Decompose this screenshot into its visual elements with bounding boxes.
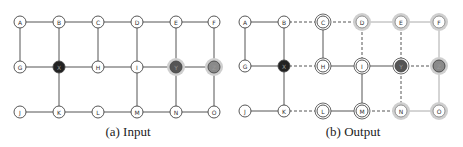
node-G: G (14, 61, 26, 73)
node-J: J (14, 106, 26, 118)
node-B: B (278, 16, 290, 28)
node-label: M (359, 108, 364, 115)
node-M: M (131, 106, 143, 118)
node-label: C (321, 19, 325, 26)
node-C: C (92, 16, 104, 28)
node-D: D (131, 16, 143, 28)
node-label: I (361, 63, 363, 70)
node-label: C (96, 19, 100, 26)
node-label: X (282, 63, 286, 70)
node-label: F (212, 19, 216, 26)
node-N: N (170, 106, 182, 118)
node-label: D (135, 19, 140, 26)
node-I: I (354, 58, 370, 74)
node-F: F (208, 16, 220, 28)
node-H: H (315, 58, 331, 74)
node-Y: Y (167, 58, 185, 76)
node-label: Z (212, 64, 216, 71)
node-K: K (53, 106, 65, 118)
node-A: A (14, 16, 26, 28)
node-label: J (243, 108, 246, 116)
node-L: L (315, 103, 331, 119)
node-label: Y (173, 64, 178, 71)
node-label: I (136, 64, 138, 71)
node-label: G (18, 64, 23, 71)
node-label: B (282, 19, 286, 26)
node-B: B (53, 16, 65, 28)
node-E: E (392, 13, 410, 31)
panel-input-graph: ABCDEFGXHIYZJKLMNO (14, 16, 223, 118)
node-Z: Z (205, 58, 223, 76)
node-M: M (354, 103, 370, 119)
node-Z: Z (430, 57, 448, 75)
node-O: O (208, 106, 220, 118)
node-Y: Y (393, 58, 409, 74)
node-label: O (212, 109, 217, 116)
node-G: G (239, 60, 251, 72)
node-A: A (239, 16, 251, 28)
node-C: C (315, 14, 331, 30)
caption-output: (b) Output (278, 124, 428, 140)
node-K: K (278, 105, 290, 117)
node-J: J (239, 105, 251, 117)
node-label: E (399, 19, 403, 26)
caption-input: (a) Input (53, 124, 203, 140)
node-label: X (57, 64, 61, 71)
node-label: E (174, 19, 178, 26)
node-label: N (399, 108, 404, 115)
node-label: F (437, 19, 441, 26)
node-label: B (57, 19, 61, 26)
node-label: H (321, 63, 326, 70)
node-label: O (437, 108, 442, 115)
node-label: M (134, 109, 139, 116)
edges (245, 22, 439, 111)
node-D: D (353, 13, 371, 31)
node-H: H (92, 61, 104, 73)
node-E: E (170, 16, 182, 28)
node-label: H (96, 64, 101, 71)
node-label: J (18, 109, 21, 117)
node-O: O (430, 102, 448, 120)
node-L: L (92, 106, 104, 118)
node-label: G (243, 63, 248, 70)
node-X: X (53, 61, 65, 73)
node-label: Y (398, 63, 403, 70)
node-I: I (131, 61, 143, 73)
node-label: Z (437, 63, 441, 70)
node-F: F (430, 13, 448, 31)
panel-output-graph: ABCDEFGXHIYZJKLMNO (239, 13, 448, 120)
node-X: X (278, 60, 290, 72)
node-N: N (392, 102, 410, 120)
node-label: D (360, 19, 365, 26)
node-label: N (174, 109, 179, 116)
